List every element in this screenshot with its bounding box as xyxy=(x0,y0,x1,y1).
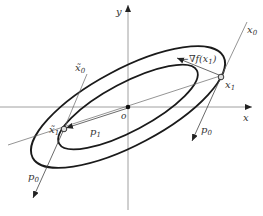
diagram-canvas: y x o x0 x1 x̃0 x̃1 −∇f(x1) p1 p0 p0 xyxy=(0,0,263,216)
x1-label: x1 xyxy=(225,79,235,92)
origin-label: o xyxy=(121,111,127,121)
x1-point xyxy=(218,74,224,80)
xt1-label: x̃1 xyxy=(49,124,59,137)
xt0-label: x̃0 xyxy=(75,62,86,75)
p1-label: p1 xyxy=(90,126,101,139)
x0-label: x0 xyxy=(247,24,258,37)
origin-point xyxy=(126,105,131,110)
p1-arrow xyxy=(66,108,128,128)
xt1-point xyxy=(61,126,67,132)
p0-label-right: p0 xyxy=(201,124,212,137)
p0-label-left: p0 xyxy=(28,171,39,184)
x0-line xyxy=(221,22,247,77)
y-axis-label: y xyxy=(115,6,122,17)
x-axis-label: x xyxy=(243,112,249,123)
diagram-figure: y x o x0 x1 x̃0 x̃1 −∇f(x1) p1 p0 p0 xyxy=(0,0,263,216)
